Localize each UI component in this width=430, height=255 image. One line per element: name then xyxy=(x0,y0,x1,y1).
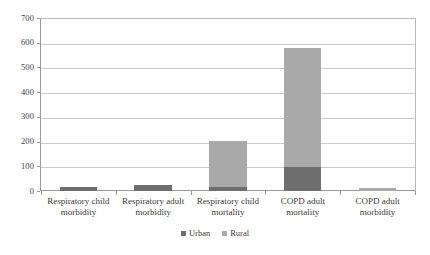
bar-stack[interactable] xyxy=(284,48,321,191)
x-axis-tick-mark xyxy=(265,191,266,195)
y-axis-tick-mark xyxy=(37,67,40,68)
x-axis-category-label: COPD adult morbidity xyxy=(340,196,415,218)
x-axis-category-label: Respiratory child morbidity xyxy=(41,196,116,218)
y-axis-tick-label: 500 xyxy=(0,63,34,72)
bar-segment-rural[interactable] xyxy=(284,48,321,167)
y-axis-tick-label: 100 xyxy=(0,162,34,171)
y-axis-tick-mark xyxy=(37,92,40,93)
legend-item-rural[interactable]: Rural xyxy=(222,229,249,238)
y-axis-tick-label: 700 xyxy=(0,14,34,23)
x-axis-category-label: Respiratory adult morbidity xyxy=(116,196,191,218)
chart-legend: UrbanRural xyxy=(0,229,430,238)
bar-segment-rural[interactable] xyxy=(359,188,396,191)
y-axis-tick-mark xyxy=(37,166,40,167)
x-axis-labels: Respiratory child morbidityRespiratory a… xyxy=(41,196,415,226)
bar-slot xyxy=(265,18,340,191)
bar-slot xyxy=(191,18,266,191)
legend-label: Rural xyxy=(230,229,249,238)
y-axis-tick-mark xyxy=(37,43,40,44)
bar-segment-urban[interactable] xyxy=(284,167,321,191)
legend-swatch-icon xyxy=(181,231,186,236)
x-axis-tick-mark xyxy=(41,191,42,195)
y-axis-tick-mark xyxy=(37,191,40,192)
x-axis-tick-mark xyxy=(340,191,341,195)
y-axis-tick-mark xyxy=(37,142,40,143)
bars-group xyxy=(41,18,415,191)
x-axis-category-label: Respiratory child mortality xyxy=(191,196,266,218)
x-axis-tick-mark xyxy=(191,191,192,195)
stacked-bar-chart: 0100200300400500600700 Respiratory child… xyxy=(0,0,430,255)
y-axis-tick-label: 200 xyxy=(0,137,34,146)
x-axis-tick-mark xyxy=(415,191,416,195)
bar-segment-urban[interactable] xyxy=(60,187,97,191)
bar-stack[interactable] xyxy=(209,141,246,191)
legend-item-urban[interactable]: Urban xyxy=(181,229,210,238)
bar-slot xyxy=(116,18,191,191)
bar-segment-urban[interactable] xyxy=(209,187,246,191)
bar-stack[interactable] xyxy=(359,188,396,191)
bar-slot xyxy=(41,18,116,191)
bar-slot xyxy=(340,18,415,191)
bar-segment-rural[interactable] xyxy=(209,141,246,187)
y-axis-tick-label: 0 xyxy=(0,187,34,196)
legend-swatch-icon xyxy=(222,231,227,236)
y-axis-tick-label: 300 xyxy=(0,112,34,121)
y-axis-tick-mark xyxy=(37,18,40,19)
y-axis-tick-mark xyxy=(37,117,40,118)
y-axis-tick-label: 400 xyxy=(0,88,34,97)
bar-segment-urban[interactable] xyxy=(134,185,171,191)
legend-label: Urban xyxy=(189,229,210,238)
y-axis-tick-label: 600 xyxy=(0,38,34,47)
bar-stack[interactable] xyxy=(134,185,171,191)
x-axis-tick-mark xyxy=(116,191,117,195)
bar-stack[interactable] xyxy=(60,187,97,191)
x-axis-category-label: COPD adult mortality xyxy=(265,196,340,218)
